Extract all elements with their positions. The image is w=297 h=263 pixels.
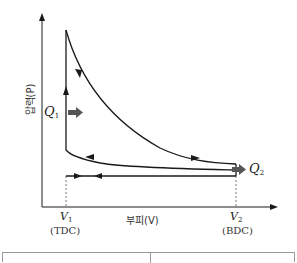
v2-symbol: V — [230, 210, 238, 223]
v2-bdc-label: (BDC) — [222, 225, 253, 236]
arrow-right-on-line-icon — [74, 173, 82, 179]
arrow-down-along-curve-icon — [75, 69, 82, 78]
direction-arrows — [63, 69, 200, 179]
cycle-curves — [66, 30, 236, 176]
table-column-divider — [150, 253, 151, 263]
v1-label: V1 — [60, 210, 72, 224]
table-header-row — [2, 252, 295, 262]
q2-label: Q2 — [249, 161, 264, 177]
q2-symbol: Q — [249, 161, 260, 176]
q2-subscript: 2 — [260, 169, 264, 177]
arrow-left-on-line-icon — [94, 173, 102, 179]
q1-label: Q1 — [44, 104, 59, 120]
v2-subscript: 2 — [238, 216, 242, 224]
v1-symbol: V — [60, 210, 68, 223]
heat-in-arrow-icon — [68, 107, 83, 118]
heat-out-arrow-icon — [232, 164, 246, 175]
v1-subscript: 1 — [68, 216, 72, 224]
v1-tdc-label: (TDC) — [50, 225, 80, 236]
compression-curve — [66, 150, 236, 170]
x-axis — [42, 204, 278, 210]
v2-label: V2 — [230, 210, 242, 224]
arrow-left-along-curve-icon — [85, 154, 94, 160]
y-axis-label: 압력(P) — [22, 84, 37, 116]
q1-symbol: Q — [44, 104, 55, 119]
q1-subscript: 1 — [55, 112, 59, 120]
expansion-curve — [66, 30, 236, 164]
arrow-up-icon — [63, 86, 69, 95]
x-axis-label: 부피(V) — [126, 212, 159, 227]
